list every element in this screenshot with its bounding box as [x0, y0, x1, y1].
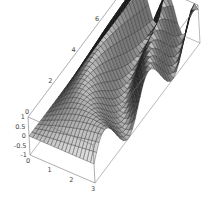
svg-text:4: 4 — [72, 46, 76, 54]
svg-text:1: 1 — [48, 166, 52, 174]
svg-text:0: 0 — [25, 108, 29, 116]
svg-text:2: 2 — [48, 77, 52, 85]
svg-text:-0.5: -0.5 — [14, 142, 27, 150]
surface-plot-3d: 10.50-0.5-1012302468 — [0, 0, 203, 201]
svg-text:0: 0 — [26, 157, 30, 165]
plot-canvas: 10.50-0.5-1012302468 — [0, 0, 203, 201]
svg-text:0.5: 0.5 — [15, 123, 25, 131]
svg-text:6: 6 — [95, 15, 99, 23]
svg-text:0: 0 — [22, 132, 26, 140]
svg-text:3: 3 — [91, 185, 95, 193]
svg-text:2: 2 — [69, 176, 73, 184]
